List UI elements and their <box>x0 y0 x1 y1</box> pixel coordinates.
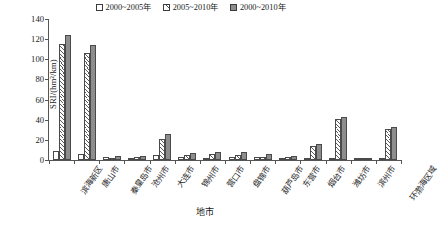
x-tick-mark <box>175 160 176 164</box>
y-tick-label: 60 <box>35 95 44 104</box>
bar <box>90 45 96 160</box>
bar-group <box>74 19 99 160</box>
bar-group <box>225 19 250 160</box>
legend-label: 2000~2005年 <box>106 3 152 12</box>
bar <box>391 127 397 160</box>
x-tick-mark <box>275 160 276 164</box>
legend-item-2000-2010: 2000~2010年 <box>230 3 285 12</box>
x-category-label: 大连市 <box>176 165 197 190</box>
legend-label: 2000~2010年 <box>240 3 286 12</box>
x-tick-mark <box>200 160 201 164</box>
x-tick-mark <box>225 160 226 164</box>
bar <box>316 144 322 160</box>
x-tick-mark <box>351 160 352 164</box>
x-category-label: 环渤海区域 <box>409 165 439 203</box>
legend-swatch-hatched-square-icon <box>163 4 170 11</box>
bar-group <box>376 19 401 160</box>
bar-group <box>49 19 74 160</box>
x-tick-mark <box>150 160 151 164</box>
x-tick-mark <box>49 160 50 164</box>
x-tick-mark <box>99 160 100 164</box>
bar <box>241 152 247 160</box>
bar-group <box>300 19 325 160</box>
bar-group <box>124 19 149 160</box>
x-axis-title: 地市 <box>0 205 410 218</box>
plot-area: SRI/(hm²/km) 020406080100120140 <box>48 19 401 161</box>
y-tick-label: 40 <box>35 115 44 124</box>
legend-item-2005-2010: 2005~2010年 <box>163 3 218 12</box>
x-tick-mark <box>300 160 301 164</box>
bar-group <box>250 19 275 160</box>
bar <box>291 156 297 160</box>
x-category-label: 滨海新区 <box>79 165 104 196</box>
y-tick-label: 0 <box>40 156 44 165</box>
bar-group <box>275 19 300 160</box>
bar <box>366 158 372 160</box>
y-tick-label: 100 <box>31 55 44 64</box>
x-tick-mark <box>74 160 75 164</box>
y-tick-label: 120 <box>31 35 44 44</box>
bar <box>190 153 196 160</box>
bar <box>140 156 146 160</box>
bar <box>266 154 272 160</box>
x-category-label: 滨州市 <box>378 165 399 190</box>
bar-group <box>150 19 175 160</box>
y-tick-label: 140 <box>31 15 44 24</box>
x-category-label: 烟台市 <box>327 165 348 190</box>
bar-group <box>351 19 376 160</box>
x-category-label: 盘锦市 <box>252 165 273 190</box>
bar-group <box>99 19 124 160</box>
bar-group <box>326 19 351 160</box>
bar <box>341 117 347 160</box>
bar-group <box>175 19 200 160</box>
y-tick-label: 20 <box>35 136 44 145</box>
bar-group <box>200 19 225 160</box>
bar <box>215 152 221 160</box>
bar <box>115 156 121 160</box>
x-tick-mark <box>401 160 402 164</box>
x-category-label: 潍坊市 <box>352 165 373 190</box>
x-category-label: 锦州市 <box>202 165 223 190</box>
bar <box>165 134 171 160</box>
x-category-label: 葫芦岛市 <box>280 165 305 196</box>
legend-label: 2005~2010年 <box>173 3 219 12</box>
chart-legend: 2000~2005年 2005~2010年 2000~2010年 <box>96 3 286 12</box>
x-tick-mark <box>124 160 125 164</box>
bar <box>65 35 71 160</box>
x-tick-mark <box>250 160 251 164</box>
x-tick-mark <box>326 160 327 164</box>
x-category-label: 秦皇岛市 <box>129 165 154 196</box>
x-tick-mark <box>376 160 377 164</box>
legend-item-2000-2005: 2000~2005年 <box>96 3 151 12</box>
legend-swatch-gray-square-icon <box>230 4 237 11</box>
x-category-label: 营口市 <box>227 165 248 190</box>
y-tick-label: 80 <box>35 75 44 84</box>
legend-swatch-white-square-icon <box>96 4 103 11</box>
